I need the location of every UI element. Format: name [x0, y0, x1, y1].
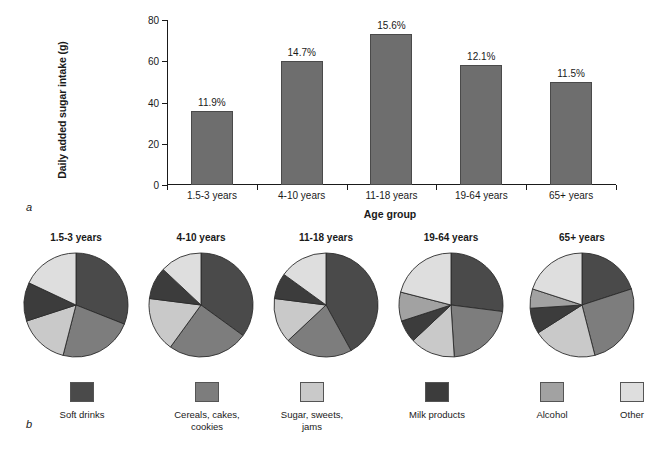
bar-group: 15.6%11-18 years: [347, 20, 437, 185]
legend-item: Cereals, cakes, cookies: [147, 382, 267, 432]
pie-holder: [517, 249, 647, 361]
bar-series: 11.9%1.5-3 years14.7%4-10 years15.6%11-1…: [167, 20, 616, 185]
bar: [191, 111, 233, 185]
legend-swatch: [70, 382, 94, 402]
y-tick-label: 20: [148, 138, 159, 149]
bar-value-label: 11.9%: [198, 97, 226, 108]
legend-label: Other: [572, 409, 663, 421]
pie-holder: [261, 249, 391, 361]
pie-chart: 65+ years: [517, 232, 647, 361]
x-tick-mark: [436, 185, 437, 190]
bar-value-label: 11.5%: [557, 68, 585, 79]
y-tick-label: 40: [148, 97, 159, 108]
y-axis-label: Daily added sugar intake (g): [56, 35, 68, 185]
bar-group: 12.1%19-64 years: [436, 20, 526, 185]
pie-title: 1.5-3 years: [11, 232, 141, 243]
figure-root: Daily added sugar intake (g) Age group 0…: [0, 0, 663, 450]
x-tick-mark: [167, 185, 168, 190]
y-tick-label: 60: [148, 56, 159, 67]
pie-legend: Soft drinksCereals, cakes, cookiesSugar,…: [0, 382, 663, 450]
bar-value-label: 14.7%: [288, 47, 316, 58]
legend-label: Milk products: [377, 409, 497, 421]
bar-group: 11.5%65+ years: [526, 20, 616, 185]
panel-letter-a: a: [26, 201, 32, 213]
x-tick-mark: [347, 185, 348, 190]
bar-value-label: 15.6%: [377, 20, 405, 31]
bar-group: 14.7%4-10 years: [257, 20, 347, 185]
x-tick-mark: [616, 185, 617, 190]
legend-label: Sugar, sweets, jams: [252, 409, 372, 432]
legend-swatch: [300, 382, 324, 402]
x-tick-label: 1.5-3 years: [187, 190, 237, 201]
y-tick-label: 0: [153, 180, 159, 191]
pie-slice: [451, 253, 503, 312]
legend-item: Soft drinks: [22, 382, 142, 421]
bar: [370, 34, 412, 185]
pie-title: 4-10 years: [136, 232, 266, 243]
legend-swatch: [195, 382, 219, 402]
pie-chart: 4-10 years: [136, 232, 266, 361]
bar: [281, 61, 323, 185]
bar: [550, 82, 592, 185]
pie-chart: 1.5-3 years: [11, 232, 141, 361]
pie-holder: [11, 249, 141, 361]
pie-svg: [526, 249, 638, 361]
pie-svg: [395, 249, 507, 361]
pie-charts-panel: 1.5-3 years4-10 years11-18 years19-64 ye…: [0, 232, 663, 450]
legend-label: Cereals, cakes, cookies: [147, 409, 267, 432]
legend-label: Soft drinks: [22, 409, 142, 421]
x-tick-label: 65+ years: [549, 190, 593, 201]
bar-plot-area: 020406080 11.9%1.5-3 years14.7%4-10 year…: [167, 20, 616, 185]
legend-item: Other: [572, 382, 663, 421]
legend-swatch: [620, 382, 644, 402]
pie-holder: [386, 249, 516, 361]
legend-swatch: [425, 382, 449, 402]
legend-swatch: [540, 382, 564, 402]
bar-value-label: 12.1%: [467, 51, 495, 62]
pie-title: 65+ years: [517, 232, 647, 243]
panel-letter-b: b: [26, 418, 32, 430]
x-tick-mark: [526, 185, 527, 190]
pie-holder: [136, 249, 266, 361]
pie-title: 11-18 years: [261, 232, 391, 243]
pie-slice: [451, 305, 503, 357]
pie-svg: [270, 249, 382, 361]
bar-group: 11.9%1.5-3 years: [167, 20, 257, 185]
x-axis-label: Age group: [160, 208, 620, 220]
x-tick-label: 19-64 years: [455, 190, 508, 201]
x-tick-mark: [257, 185, 258, 190]
pie-chart: 19-64 years: [386, 232, 516, 361]
pie-svg: [20, 249, 132, 361]
legend-item: Milk products: [377, 382, 497, 421]
x-tick-label: 4-10 years: [278, 190, 325, 201]
pie-title: 19-64 years: [386, 232, 516, 243]
pie-svg: [145, 249, 257, 361]
pie-chart: 11-18 years: [261, 232, 391, 361]
legend-item: Sugar, sweets, jams: [252, 382, 372, 432]
y-tick-label: 80: [148, 15, 159, 26]
x-tick-label: 11-18 years: [365, 190, 417, 201]
bar: [460, 65, 502, 185]
bar-chart-panel: Daily added sugar intake (g) Age group 0…: [0, 0, 663, 228]
